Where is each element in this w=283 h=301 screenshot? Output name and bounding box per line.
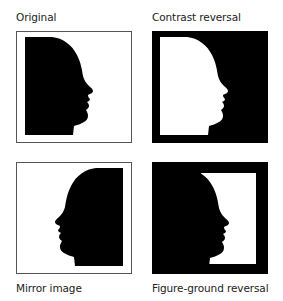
panel-contrast-reversal <box>152 31 268 143</box>
panel-original <box>17 32 132 143</box>
figure-canvas <box>0 0 283 301</box>
panel-mirror-image <box>17 163 132 274</box>
panel-figure-ground-reversal <box>152 162 268 274</box>
